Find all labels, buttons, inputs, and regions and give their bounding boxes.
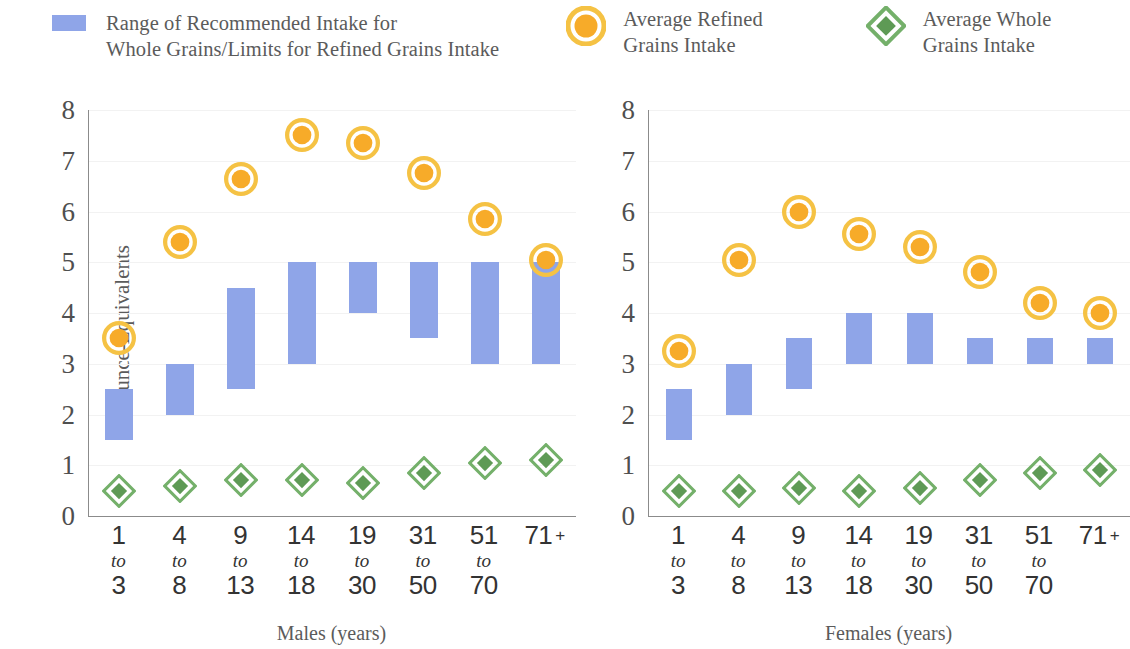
range-bar (166, 364, 194, 415)
x-axis-tick-label: 31to50 (949, 522, 1009, 600)
refined-grains-circle-marker (722, 243, 756, 277)
chart-column (333, 110, 394, 516)
whole-grains-diamond-marker (224, 463, 258, 497)
y-axis-tick-label: 8 (62, 97, 76, 124)
x-axis-tick-label: 4to8 (708, 522, 768, 600)
refined-grains-circle-marker (407, 156, 441, 190)
range-bar (726, 364, 752, 415)
chart-column (150, 110, 211, 516)
chart-column (950, 110, 1010, 516)
range-bar (967, 338, 993, 363)
x-axis-tick-label: 9to13 (768, 522, 828, 600)
chart-panel-males: Ounce-Equivalents 012345678 1to34to89to1… (0, 0, 580, 649)
whole-grains-diamond-marker (1083, 453, 1117, 487)
chart-column (1010, 110, 1070, 516)
y-axis-tick-label: 2 (62, 401, 76, 428)
range-bar (846, 313, 872, 364)
x-axis-tick-label: 19to30 (889, 522, 949, 600)
chart-column (890, 110, 950, 516)
refined-grains-circle-marker (163, 225, 197, 259)
y-axis-tick-label: 2 (622, 401, 636, 428)
range-bar (288, 262, 316, 364)
plot-area-males: 012345678 (88, 110, 576, 517)
refined-grains-circle-marker (1023, 286, 1057, 320)
y-axis-tick-label: 4 (62, 300, 76, 327)
y-axis-tick-label: 1 (62, 452, 76, 479)
x-axis-labels-females: 1to34to89to1314to1819to3031to5051to7071+ (648, 522, 1129, 622)
whole-grains-diamond-marker (903, 471, 937, 505)
whole-grains-diamond-marker (963, 463, 997, 497)
y-axis-tick-label: 5 (62, 249, 76, 276)
y-axis-tick-label: 6 (622, 198, 636, 225)
y-axis-tick-label: 0 (622, 503, 636, 530)
refined-grains-circle-marker (529, 243, 563, 277)
whole-grains-diamond-marker (346, 466, 380, 500)
chart-column (709, 110, 769, 516)
chart-column (1070, 110, 1130, 516)
chart-column (393, 110, 454, 516)
range-bar (1027, 338, 1053, 363)
x-axis-tick-label: 71+ (1069, 522, 1129, 549)
refined-grains-circle-marker (346, 126, 380, 160)
x-axis-tick-label: 14to18 (271, 522, 332, 600)
whole-grains-diamond-marker (1023, 456, 1057, 490)
chart-column (769, 110, 829, 516)
range-bar (410, 262, 438, 338)
whole-grains-diamond-marker (468, 446, 502, 480)
whole-grains-diamond-marker (529, 443, 563, 477)
y-axis-tick-label: 6 (62, 198, 76, 225)
x-axis-tick-label: 51to70 (1009, 522, 1069, 600)
chart-panel-females: 012345678 1to34to89to1314to1819to3031to5… (580, 0, 1129, 649)
y-axis-tick-label: 5 (622, 249, 636, 276)
y-axis-tick-label: 0 (62, 503, 76, 530)
chart-column (272, 110, 333, 516)
whole-grains-diamond-marker (662, 474, 696, 508)
refined-grains-circle-marker (1083, 296, 1117, 330)
whole-grains-diamond-marker (102, 474, 136, 508)
refined-grains-circle-marker (963, 255, 997, 289)
x-axis-tick-label: 4to8 (149, 522, 210, 600)
whole-grains-diamond-marker (163, 469, 197, 503)
chart-column (649, 110, 709, 516)
y-axis-tick-label: 3 (622, 350, 636, 377)
x-axis-title-females: Females (years) (648, 622, 1129, 645)
x-axis-labels-males: 1to34to89to1314to1819to3031to5051to7071+ (88, 522, 575, 622)
y-axis-tick-label: 8 (622, 97, 636, 124)
whole-grains-diamond-marker (407, 456, 441, 490)
range-bar (666, 389, 692, 440)
refined-grains-circle-marker (102, 321, 136, 355)
refined-grains-circle-marker (782, 195, 816, 229)
y-axis-tick-label: 7 (622, 147, 636, 174)
chart-column (515, 110, 576, 516)
chart-column (211, 110, 272, 516)
y-axis-tick-label: 7 (62, 147, 76, 174)
range-bar (349, 262, 377, 313)
x-axis-tick-label: 14to18 (828, 522, 888, 600)
refined-grains-circle-marker (903, 230, 937, 264)
range-bar (227, 288, 255, 390)
x-axis-tick-label: 9to13 (210, 522, 271, 600)
x-axis-tick-label: 1to3 (648, 522, 708, 600)
plot-area-females: 012345678 (648, 110, 1130, 517)
x-axis-tick-label: 1to3 (88, 522, 149, 600)
range-bar (105, 389, 133, 440)
range-bar (786, 338, 812, 389)
refined-grains-circle-marker (468, 202, 502, 236)
whole-grains-diamond-marker (842, 474, 876, 508)
whole-grains-diamond-marker (722, 474, 756, 508)
y-axis-tick-label: 4 (622, 300, 636, 327)
range-bar (1087, 338, 1113, 363)
refined-grains-circle-marker (842, 217, 876, 251)
refined-grains-circle-marker (662, 334, 696, 368)
chart-column (454, 110, 515, 516)
x-axis-tick-label: 71+ (514, 522, 575, 549)
refined-grains-circle-marker (224, 162, 258, 196)
chart-column (829, 110, 889, 516)
range-bar (471, 262, 499, 364)
refined-grains-circle-marker (285, 118, 319, 152)
chart-column (89, 110, 150, 516)
x-axis-title-males: Males (years) (88, 622, 575, 645)
whole-grains-diamond-marker (782, 471, 816, 505)
y-axis-tick-label: 1 (622, 452, 636, 479)
range-bar (907, 313, 933, 364)
